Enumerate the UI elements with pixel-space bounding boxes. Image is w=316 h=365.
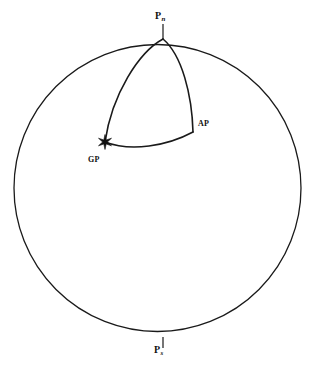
arc-pole-to-assumed-position <box>163 39 193 132</box>
label-south-pole-letter: P <box>154 344 160 355</box>
earth-outline-circle <box>14 45 301 332</box>
arc-geographic-position-to-assumed-position <box>105 132 193 147</box>
label-north-pole-letter: P <box>155 10 161 21</box>
gp-star-icon <box>99 135 112 150</box>
label-north-pole-subscript: n <box>162 15 166 23</box>
label-south-pole-subscript: s <box>161 349 164 357</box>
diagram-canvas: Pn Ps AP GP <box>0 0 316 365</box>
label-north-pole: Pn <box>155 11 165 21</box>
arc-pole-to-geographic-position <box>105 39 163 142</box>
label-assumed-position: AP <box>198 120 209 128</box>
navigational-triangle-svg <box>0 0 316 365</box>
label-south-pole: Ps <box>154 345 163 355</box>
label-geographic-position: GP <box>88 156 100 164</box>
